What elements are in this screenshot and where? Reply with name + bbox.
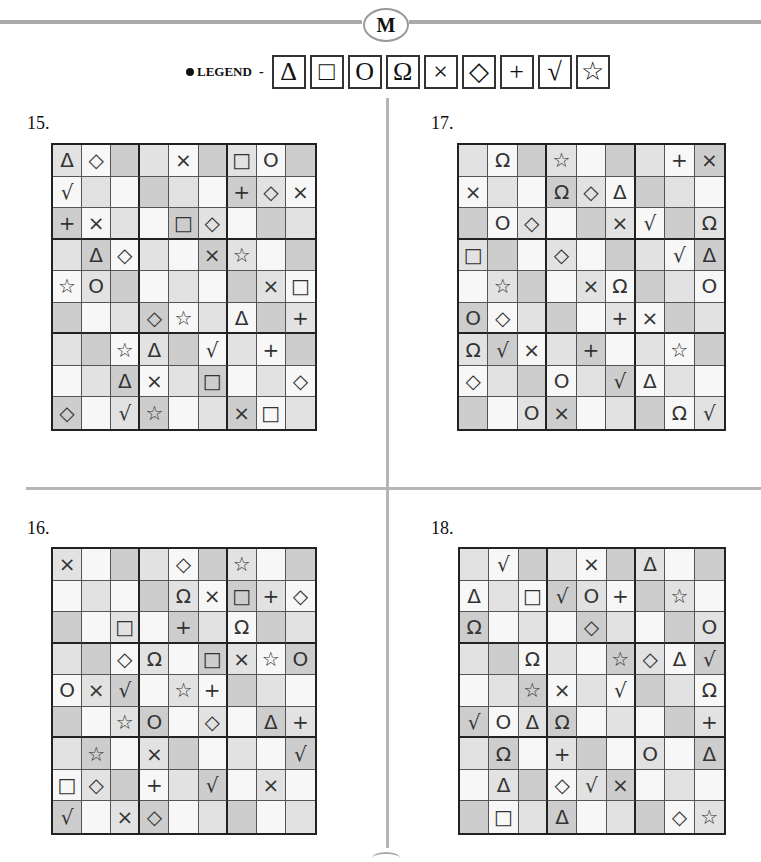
grid-cell (169, 738, 198, 770)
grid-cell: × (228, 644, 257, 676)
grid-cell (695, 303, 724, 335)
grid-cell: + (257, 334, 286, 366)
grid-cell (636, 801, 665, 833)
grid-cell (228, 801, 257, 833)
grid-cell (606, 397, 635, 429)
grid-cell (111, 303, 140, 335)
grid-cell: □ (489, 801, 518, 833)
grid-cell (665, 366, 694, 398)
grid-cell (695, 366, 724, 398)
grid-cell (169, 334, 198, 366)
grid-cell: × (577, 549, 606, 581)
grid-cell (518, 177, 547, 209)
grid-cell (199, 303, 228, 335)
grid-cell: O (82, 271, 111, 303)
grid-cell (519, 770, 548, 802)
grid-cell (169, 644, 198, 676)
grid-cell (111, 208, 140, 240)
grid-cell (489, 644, 518, 676)
grid-cell: O (140, 707, 169, 739)
grid-cell (53, 366, 82, 398)
grid-cell: ◇ (169, 549, 198, 581)
grid-cell: + (286, 303, 315, 335)
grid-cell (577, 145, 606, 177)
grid-cell: Ω (519, 644, 548, 676)
grid-cell (82, 612, 111, 644)
section-badge: M (363, 8, 409, 42)
grid-cell (518, 366, 547, 398)
grid-cell: ☆ (519, 675, 548, 707)
grid-cell (257, 549, 286, 581)
grid-cell: ☆ (228, 240, 257, 272)
grid-cell: □ (199, 366, 228, 398)
grid-cell: × (111, 801, 140, 833)
grid-cell (547, 271, 576, 303)
grid-cell (257, 612, 286, 644)
grid-cell: × (695, 145, 724, 177)
grid-cell: ◇ (111, 240, 140, 272)
grid-cell (286, 549, 315, 581)
grid-cell (460, 738, 489, 770)
grid-cell (577, 208, 606, 240)
grid-cell: O (257, 145, 286, 177)
grid-cell: √ (286, 738, 315, 770)
grid-cell (257, 801, 286, 833)
legend-check-icon: √ (538, 55, 572, 89)
grid-cell (460, 644, 489, 676)
grid-cell: Δ (489, 770, 518, 802)
grid-cell: √ (489, 549, 518, 581)
grid-cell (286, 208, 315, 240)
legend: LEGEND - Δ □ O Ω × ◇ + √ ☆ (186, 55, 614, 89)
grid-cell (169, 707, 198, 739)
grid-cell: Ω (665, 397, 694, 429)
grid-cell (489, 612, 518, 644)
grid-cell (577, 644, 606, 676)
grid-cell (199, 397, 228, 429)
grid-cell: + (695, 707, 724, 739)
grid-cell (665, 770, 694, 802)
grid-cell (111, 581, 140, 613)
grid-cell (636, 707, 665, 739)
grid-cell: Ω (460, 612, 489, 644)
grid-cell: ◇ (577, 612, 606, 644)
grid-cell: √ (53, 801, 82, 833)
grid-cell (169, 801, 198, 833)
grid-cell (82, 707, 111, 739)
grid-cell: √ (577, 770, 606, 802)
grid-cell: □ (257, 397, 286, 429)
grid-cell: ◇ (548, 770, 577, 802)
grid-cell: ◇ (140, 303, 169, 335)
grid-cell (228, 770, 257, 802)
grid-cell: O (636, 738, 665, 770)
grid-cell (577, 801, 606, 833)
grid-cell (665, 208, 694, 240)
grid-cell (548, 549, 577, 581)
grid-cell (82, 549, 111, 581)
grid-cell: Δ (140, 334, 169, 366)
grid-cell (636, 770, 665, 802)
grid-cell: × (547, 397, 576, 429)
grid-cell: O (53, 675, 82, 707)
grid-cell (228, 271, 257, 303)
grid-cell: × (82, 208, 111, 240)
grid-cell: Ω (459, 334, 488, 366)
grid-cell: Ω (489, 738, 518, 770)
grid-cell: Δ (695, 240, 724, 272)
grid-cell: √ (695, 644, 724, 676)
grid-cell (577, 303, 606, 335)
grid-cell (607, 707, 636, 739)
grid-cell: ◇ (665, 801, 694, 833)
grid-cell (140, 208, 169, 240)
grid-cell (140, 549, 169, 581)
grid-cell: ☆ (82, 738, 111, 770)
grid-cell: × (199, 240, 228, 272)
grid-cell (665, 738, 694, 770)
grid-cell (518, 271, 547, 303)
grid-cell: Δ (53, 145, 82, 177)
grid-cell: × (548, 675, 577, 707)
grid-cell (636, 177, 665, 209)
legend-plus-icon: + (500, 55, 534, 89)
grid-cell: × (606, 208, 635, 240)
grid-cell (286, 612, 315, 644)
grid-cell: ◇ (82, 770, 111, 802)
